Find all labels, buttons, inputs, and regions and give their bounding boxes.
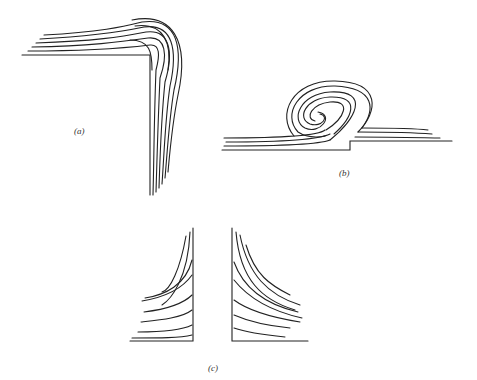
panel-c-drawing	[130, 228, 308, 341]
panel-c-label: (c)	[208, 363, 218, 373]
panel-b-drawing	[222, 81, 452, 150]
panel-b-label: (b)	[339, 168, 350, 178]
figure-canvas	[0, 0, 477, 380]
panel-a-label: (a)	[74, 126, 85, 136]
panel-a-drawing	[22, 19, 182, 195]
